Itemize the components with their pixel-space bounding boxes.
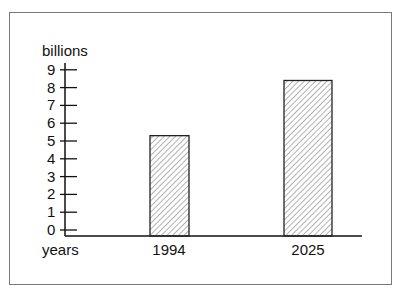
bar-2025 <box>284 80 332 236</box>
bar-chart: billions 0123456789 years 1994 2025 <box>0 0 403 296</box>
y-tick-label: 5 <box>47 132 55 149</box>
y-tick-label: 9 <box>47 61 55 78</box>
bar-1994 <box>150 136 189 236</box>
y-tick-label: 7 <box>47 96 55 113</box>
x-tick-label-1994: 1994 <box>152 241 185 258</box>
y-tick-label: 1 <box>47 203 55 220</box>
y-tick-label: 6 <box>47 114 55 131</box>
bars <box>150 80 332 236</box>
y-axis-label: billions <box>42 42 88 59</box>
x-tick-label-2025: 2025 <box>291 241 324 258</box>
x-axis-label: years <box>42 241 79 258</box>
y-tick-label: 8 <box>47 79 55 96</box>
y-ticks: 0123456789 <box>47 61 77 238</box>
y-tick-label: 2 <box>47 185 55 202</box>
y-tick-label: 4 <box>47 150 55 167</box>
y-tick-label: 3 <box>47 168 55 185</box>
y-tick-label: 0 <box>47 221 55 238</box>
